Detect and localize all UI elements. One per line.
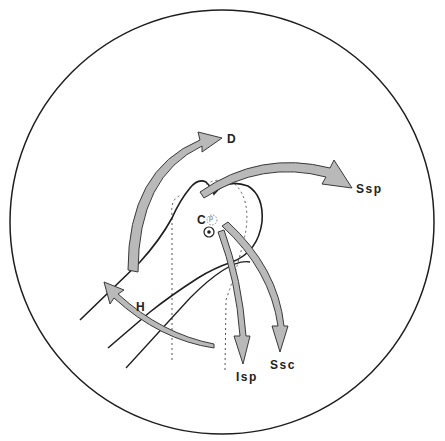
label-isp: Isp xyxy=(236,370,258,384)
arrow-ssp xyxy=(200,160,352,198)
arrow-ssc xyxy=(222,222,288,352)
center-dot-icon xyxy=(207,230,211,234)
label-p: p xyxy=(209,214,214,221)
arrow-d xyxy=(128,132,222,272)
label-c: C xyxy=(197,213,207,227)
shoulder-diagram xyxy=(0,0,445,441)
label-ssp: Ssp xyxy=(356,182,383,196)
diagram-canvas: D Ssp C p H Isp Ssc xyxy=(0,0,445,441)
label-ssc: Ssc xyxy=(270,358,296,372)
outer-circle xyxy=(10,10,434,434)
label-h: H xyxy=(136,300,146,314)
label-d: D xyxy=(227,132,237,146)
